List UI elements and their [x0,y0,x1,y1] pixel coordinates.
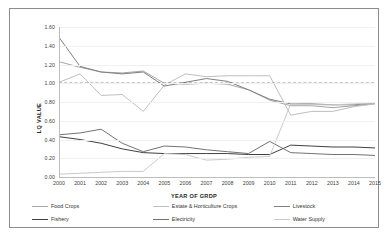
x-axis-tick-label: 2013 [327,180,339,186]
legend-item-livestock[interactable]: Livestock [274,203,368,209]
legend-label: Livestock [293,203,315,209]
x-axis-tick-label: 2000 [53,180,65,186]
x-axis-tick-label: 2005 [158,180,170,186]
x-axis-tick-label: 2006 [179,180,191,186]
x-axis-tick-label: 2010 [264,180,276,186]
legend-label: Electricity [172,216,195,222]
legend-swatch-icon [153,219,169,220]
legend-item-estate-horticulture-crops[interactable]: Estate & Horticulture Crops [153,203,274,209]
y-axis-tick-label: 0.40 [45,137,56,143]
x-axis-tick-label: 2012 [306,180,318,186]
x-axis-tick-label: 2004 [137,180,149,186]
y-axis-tick-label: 1.00 [45,80,56,86]
series-line [59,37,375,105]
series-line [59,62,375,108]
gridline [59,27,375,28]
y-axis-tick-label: 1.40 [45,43,56,49]
series-line [59,129,375,155]
y-axis-title: LQ VALUE [36,103,42,133]
x-axis-tick-label: 2003 [116,180,128,186]
x-axis-title: YEAR OF GRDP [10,193,378,199]
legend-swatch-icon [153,206,169,207]
legend-swatch-icon [274,219,290,220]
gridline [59,140,375,141]
x-axis-tick-label: 2008 [222,180,234,186]
x-axis-tick-label: 2002 [95,180,107,186]
gridline [59,121,375,122]
x-axis-tick-label: 2009 [243,180,255,186]
x-axis-tick-label: 2011 [285,180,296,186]
x-axis-tick-label: 2014 [348,180,360,186]
legend-item-food-crops[interactable]: Food Crops [32,203,153,209]
legend-swatch-icon [274,206,290,207]
legend-item-water-supply[interactable]: Water Supply [274,216,368,222]
legend-swatch-icon [32,219,48,220]
chart-frame: LQ VALUE 0.000.200.400.600.801.001.201.4… [9,8,379,228]
y-axis-tick-label: 1.60 [45,24,56,30]
gridline [59,83,375,84]
y-axis-tick-label: 0.80 [45,99,56,105]
gridline [59,102,375,103]
gridline [59,46,375,47]
legend-label: Fishery [51,216,69,222]
legend-swatch-icon [32,206,48,207]
legend-item-electricity[interactable]: Electricity [153,216,274,222]
gridline [59,65,375,66]
x-axis-tick-label: 2015 [369,180,381,186]
legend-item-fishery[interactable]: Fishery [32,216,153,222]
y-axis-tick-label: 0.20 [45,155,56,161]
y-axis-tick-label: 1.20 [45,62,56,68]
x-axis-tick-label: 2007 [201,180,213,186]
y-axis-tick-label: 0.60 [45,118,56,124]
x-axis-tick-label: 2001 [74,180,86,186]
gridline [59,158,375,159]
y-axis-line [59,27,60,177]
legend-label: Water Supply [293,216,325,222]
chart-legend: Food CropsEstate & Horticulture CropsLiv… [32,203,368,222]
x-axis-line [59,177,375,178]
plot-area: 0.000.200.400.600.801.001.201.401.60 200… [59,27,375,177]
legend-label: Estate & Horticulture Crops [172,203,237,209]
legend-label: Food Crops [51,203,79,209]
